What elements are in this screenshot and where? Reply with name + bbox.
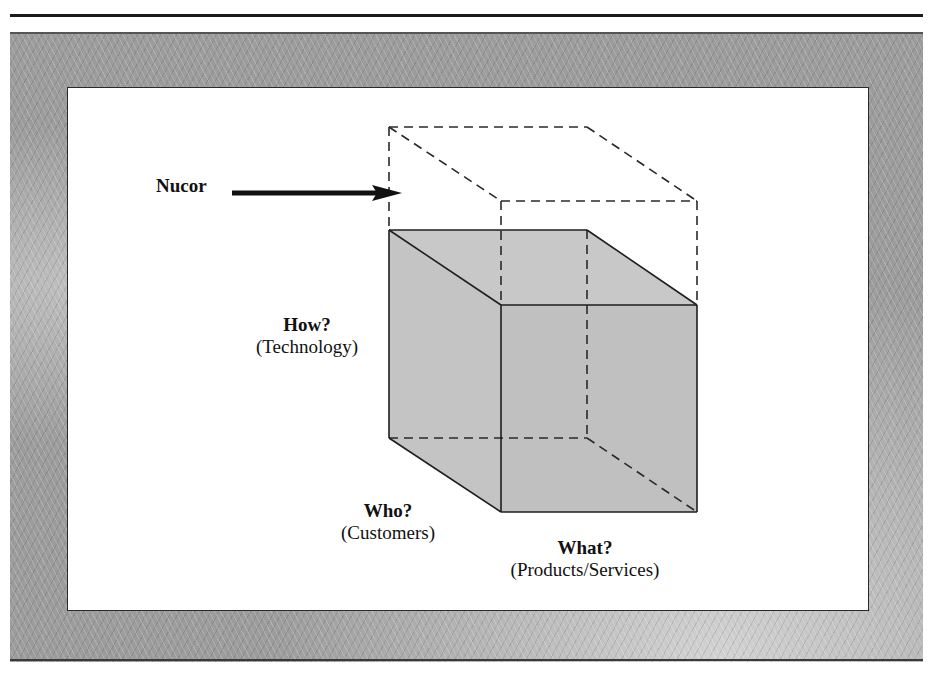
nucor-label: Nucor bbox=[156, 175, 207, 197]
nucor-arrow bbox=[232, 185, 402, 201]
who-axis-label: Who? (Customers) bbox=[318, 500, 458, 544]
who-dimension: (Customers) bbox=[318, 522, 458, 544]
how-question: How? bbox=[232, 314, 382, 336]
how-axis-label: How? (Technology) bbox=[232, 314, 382, 358]
how-dimension: (Technology) bbox=[232, 336, 382, 358]
what-dimension: (Products/Services) bbox=[490, 559, 680, 581]
what-axis-label: What? (Products/Services) bbox=[490, 537, 680, 581]
who-question: Who? bbox=[318, 500, 458, 522]
footer-rule bbox=[10, 659, 923, 661]
business-definition-cube bbox=[0, 0, 935, 677]
cube-front-face bbox=[501, 305, 697, 512]
what-question: What? bbox=[490, 537, 680, 559]
